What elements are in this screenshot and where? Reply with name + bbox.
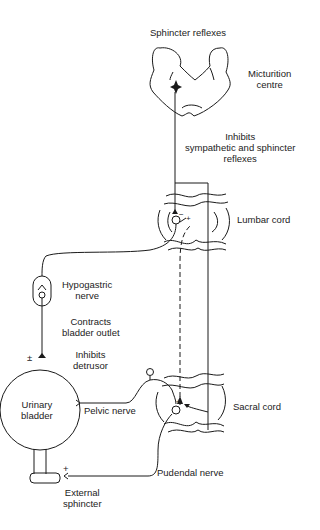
hypogastric-synapse-icon [38,285,46,290]
brainstem-inner-left [170,72,173,80]
label-hypogastric-nerve: Hypogastric nerve [62,279,112,301]
label-micturition-centre: Micturition centre [248,68,291,90]
label-line: bladder [21,410,53,421]
label-pelvic-nerve: Pelvic nerve [84,405,136,416]
brainstem-inner-curve [182,105,202,108]
hypogastric-neuron-icon [39,292,45,298]
lumbar-axon-out [42,224,176,276]
label-lumbar-cord: Lumbar cord [237,214,290,225]
pelvic-dorsal-ganglion-icon [147,369,154,376]
label-plus-minus: ± [27,352,32,363]
label-contracts-bladder-outlet: Contracts bladder outlet [62,316,120,338]
label-pudendal-nerve: Pudendal nerve [157,467,224,478]
label-sphincter-reflexes: Sphincter reflexes [150,27,226,38]
label-external-sphincter: External sphincter [63,487,102,509]
label-line: sympathetic and sphincter [185,142,295,153]
label-lumbar-minus: − [179,209,184,220]
label-line: bladder outlet [62,327,120,338]
label-sacral-cord: Sacral cord [233,401,281,412]
brainstem-outline [150,48,230,116]
label-line: Contracts [62,316,120,327]
label-line: Hypogastric [62,279,112,290]
label-line: sphincter [63,498,102,509]
bladder-neck [34,449,46,474]
label-line: External [63,487,102,498]
brainstem-inner-right [210,68,214,80]
label-line: Urinary [21,399,53,410]
label-sacral-plus: + [176,396,181,407]
external-sphincter-shape [30,473,60,483]
hypogastric-terminal-icon [38,353,46,358]
label-line: Inhibits [73,349,108,360]
descending-to-sacral [187,406,208,412]
label-inhibits-sympathetic: Inhibits sympathetic and sphincter refle… [185,131,295,164]
label-line: detrusor [73,360,108,371]
sacral-neuron-icon [172,406,180,414]
sacral-cord-section [156,374,225,433]
label-line: centre [248,79,291,90]
label-plus-external: + [63,463,69,474]
label-lumbar-plus: + [186,213,191,224]
inhibitory-terminal-icon [172,209,178,214]
label-urinary-bladder: Urinary bladder [21,399,53,421]
label-line: Micturition [248,68,291,79]
label-inhibits-detrusor: Inhibits detrusor [73,349,108,371]
micturition-neuron-icon [170,80,182,94]
pelvic-nerve [80,380,176,404]
label-line: nerve [62,290,112,301]
label-line: Inhibits [185,131,295,142]
label-line: reflexes [185,153,295,164]
